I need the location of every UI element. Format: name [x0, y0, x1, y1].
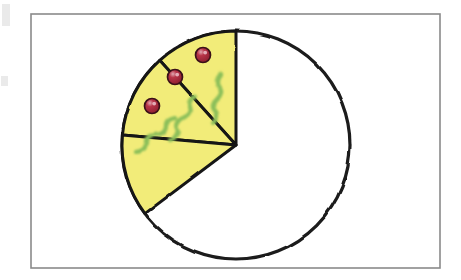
scan-mark-mid-left [1, 76, 8, 86]
slice-1-pepperoni-icon [196, 48, 211, 63]
slice-2-pepperoni-icon [168, 70, 183, 85]
scan-mark-top-left [2, 4, 10, 26]
slice-3-pepperoni-icon [145, 99, 160, 114]
diagram-canvas [0, 0, 461, 280]
pizza-diagram-svg [0, 0, 461, 280]
